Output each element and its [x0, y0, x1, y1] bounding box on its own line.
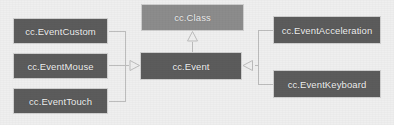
class-node-event-mouse[interactable]: cc.EventMouse — [13, 53, 108, 79]
generalization-arrowhead-left — [130, 61, 140, 71]
generalization-arrowhead-right — [243, 61, 253, 71]
class-node-cc-event[interactable]: cc.Event — [140, 52, 242, 80]
class-node-event-keyboard[interactable]: cc.EventKeyboard — [273, 70, 381, 98]
uml-class-diagram: cc.EventCustom cc.EventMouse cc.EventTou… — [0, 0, 394, 125]
connector-event-touch-to-event — [109, 66, 129, 102]
connector-event-keyboard-to-event — [255, 66, 273, 85]
class-node-cc-class[interactable]: cc.Class — [141, 4, 244, 31]
class-node-label: cc.EventKeyboard — [288, 79, 367, 90]
class-node-event-custom[interactable]: cc.EventCustom — [13, 18, 108, 44]
class-node-event-touch[interactable]: cc.EventTouch — [13, 88, 108, 114]
class-node-event-acceleration[interactable]: cc.EventAcceleration — [273, 16, 381, 44]
class-node-label: cc.EventTouch — [29, 96, 92, 107]
class-node-label: cc.Event — [172, 61, 209, 72]
generalization-arrowhead-top — [188, 32, 198, 42]
class-node-label: cc.EventCustom — [25, 26, 96, 37]
connector-event-custom-to-event — [109, 32, 129, 66]
class-node-label: cc.Class — [174, 12, 211, 23]
connector-event-acceleration-to-event — [255, 31, 273, 66]
class-node-label: cc.EventAcceleration — [282, 25, 373, 36]
class-node-label: cc.EventMouse — [27, 61, 93, 72]
